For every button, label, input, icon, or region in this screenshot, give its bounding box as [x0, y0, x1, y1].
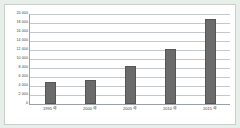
- chart-panel: 20 000 18 000 16 000 14 000 12 000 10 00…: [4, 4, 236, 125]
- chart-figure: 20 000 18 000 16 000 14 000 12 000 10 00…: [0, 0, 240, 128]
- ytick-label-4000: 4 000: [19, 84, 29, 88]
- bar-2015[interactable]: [205, 19, 216, 104]
- ytick-label-12000: 12 000: [16, 48, 28, 52]
- xtick-label-1995: 1995 年: [43, 107, 57, 111]
- xtick-label-2010: 2010 年: [163, 107, 177, 111]
- ytick-label-8000: 8 000: [19, 66, 29, 70]
- ytick-label-6000: 6 000: [19, 75, 29, 79]
- bar-slot-2015: 2015 年: [190, 14, 230, 104]
- bar-2005[interactable]: [125, 66, 136, 104]
- bar-slot-2000: 2000 年: [70, 14, 110, 104]
- bar-slot-2010: 2010 年: [150, 14, 190, 104]
- ytick-label-10000: 10 000: [16, 57, 28, 61]
- bar-slot-1995: 1995 年: [30, 14, 70, 104]
- ytick-label-0: 0: [26, 102, 28, 106]
- bar-2010[interactable]: [165, 49, 176, 104]
- plot-area: 20 000 18 000 16 000 14 000 12 000 10 00…: [29, 14, 230, 105]
- gridline-0: 0: [30, 104, 230, 105]
- ytick-label-16000: 16 000: [16, 30, 28, 34]
- ytick-label-2000: 2 000: [19, 93, 29, 97]
- bar-1995[interactable]: [45, 82, 56, 104]
- bars-layer: 1995 年 2000 年 2005 年 2010 年 2015 年: [30, 14, 230, 104]
- xtick-label-2015: 2015 年: [203, 107, 217, 111]
- ytick-label-20000: 20 000: [16, 12, 28, 16]
- ytick-label-14000: 14 000: [16, 39, 28, 43]
- bar-2000[interactable]: [85, 80, 96, 104]
- ytick-label-18000: 18 000: [16, 21, 28, 25]
- xtick-label-2000: 2000 年: [83, 107, 97, 111]
- xtick-label-2005: 2005 年: [123, 107, 137, 111]
- bar-slot-2005: 2005 年: [110, 14, 150, 104]
